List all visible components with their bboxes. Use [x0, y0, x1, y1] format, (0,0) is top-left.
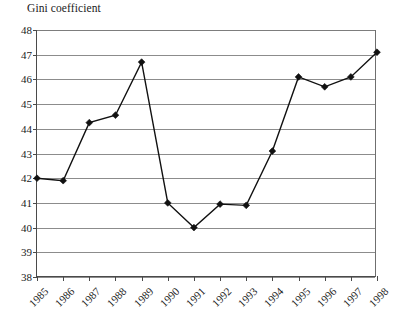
x-axis-label: 1987: [79, 285, 103, 309]
x-axis-label: 1988: [105, 285, 129, 309]
data-point-1996: [321, 83, 328, 90]
y-axis-label: 43: [21, 148, 32, 159]
data-point-1988: [112, 112, 119, 119]
x-axis-label: 1985: [26, 285, 50, 309]
x-axis-label: 1994: [262, 285, 286, 309]
x-axis-label: 1990: [157, 285, 181, 309]
x-axis-label: 1986: [53, 285, 77, 309]
x-axis-tick: [377, 276, 378, 281]
y-axis-label: 46: [21, 74, 32, 85]
data-point-1993: [243, 202, 250, 209]
x-axis-label: 1992: [210, 285, 234, 309]
y-axis-label: 48: [21, 25, 32, 36]
x-axis-label: 1997: [340, 285, 364, 309]
x-axis-label: 1995: [288, 285, 312, 309]
series-line: [37, 52, 377, 227]
gini-coefficient-line-chart: Gini coefficient 3839404142434445464748 …: [0, 0, 393, 326]
y-axis-label: 40: [21, 222, 32, 233]
data-point-1987: [86, 119, 93, 126]
x-axis-label: 1989: [131, 285, 155, 309]
y-axis-label: 38: [21, 272, 32, 283]
x-axis-label: 1993: [236, 285, 260, 309]
x-axis-label: 1996: [314, 285, 338, 309]
x-axis-label: 1998: [366, 285, 390, 309]
plot-area: 3839404142434445464748: [36, 30, 376, 277]
series-markers: [34, 49, 381, 231]
y-axis-label: 39: [21, 247, 32, 258]
y-axis-label: 47: [21, 49, 32, 60]
x-axis-label: 1991: [183, 285, 207, 309]
data-point-1994: [269, 148, 276, 155]
series-gini-coefficient: [37, 30, 377, 277]
data-point-1989: [138, 59, 145, 66]
data-point-1985: [34, 175, 41, 182]
y-axis-label: 45: [21, 99, 32, 110]
data-point-1995: [295, 74, 302, 81]
caption-sliver: [18, 318, 378, 326]
chart-title: Gini coefficient: [27, 2, 101, 15]
y-axis-label: 42: [21, 173, 32, 184]
y-axis-label: 41: [21, 197, 32, 208]
y-axis-label: 44: [21, 123, 32, 134]
data-point-1986: [60, 177, 67, 184]
